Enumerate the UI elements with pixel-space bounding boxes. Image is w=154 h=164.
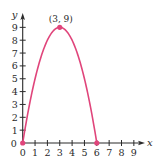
x-tick-label: 2 <box>44 147 50 158</box>
parabola-chart: 01234567890123456789 xy(3, 9) <box>0 0 154 164</box>
y-tick-label: 0 <box>11 138 17 149</box>
data-point <box>94 140 99 145</box>
vertex-annotation: (3, 9) <box>49 14 73 24</box>
y-tick-label: 7 <box>12 48 18 59</box>
y-tick-label: 9 <box>12 22 18 33</box>
x-tick-label: 3 <box>57 147 63 158</box>
y-tick-label: 8 <box>12 35 18 46</box>
x-tick-label: 6 <box>94 147 100 158</box>
axes <box>20 13 145 145</box>
y-tick-label: 4 <box>12 86 18 97</box>
y-tick-label: 3 <box>12 99 18 110</box>
y-axis-label: y <box>11 9 18 20</box>
y-tick-label: 6 <box>12 60 18 71</box>
data-point <box>57 25 62 30</box>
x-tick-label: 4 <box>69 147 75 158</box>
labels: xy(3, 9) <box>11 9 153 148</box>
x-tick-label: 1 <box>32 147 38 158</box>
parabola-curve <box>23 27 97 143</box>
data-point <box>20 140 25 145</box>
points <box>20 25 99 146</box>
x-tick-label: 8 <box>118 147 124 158</box>
x-tick-label: 9 <box>131 147 137 158</box>
x-tick-label: 7 <box>106 147 112 158</box>
y-tick-label: 1 <box>12 125 18 136</box>
y-tick-label: 5 <box>12 73 18 84</box>
curve <box>23 27 97 143</box>
x-tick-label: 5 <box>81 147 87 158</box>
x-axis-label: x <box>147 137 153 148</box>
x-tick-label: 0 <box>20 147 26 158</box>
y-tick-label: 2 <box>12 112 18 123</box>
